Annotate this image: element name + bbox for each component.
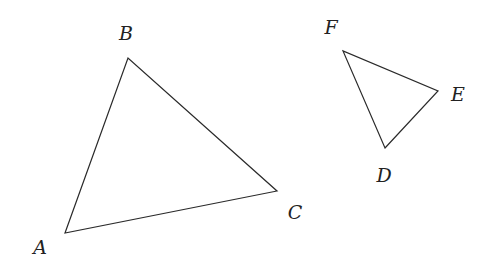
vertex-label-d: D	[375, 164, 391, 186]
triangle-def	[343, 51, 438, 148]
vertex-label-b: B	[118, 22, 133, 44]
triangles-diagram: A B C D E F	[0, 0, 496, 265]
vertex-label-f: F	[323, 16, 338, 38]
triangle-abc	[65, 58, 277, 233]
vertex-label-a: A	[31, 236, 47, 258]
vertex-label-e: E	[450, 83, 465, 105]
vertex-label-c: C	[288, 201, 303, 223]
